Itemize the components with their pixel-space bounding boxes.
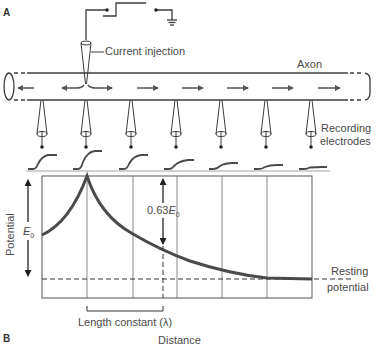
e0-label: E0 <box>23 226 34 239</box>
recording-electrodes-label-1: Recording <box>321 123 371 134</box>
recording-electrode-icon <box>216 100 226 147</box>
recording-electrodes-label-2: electrodes <box>320 136 371 147</box>
recording-electrode-icon <box>171 100 181 147</box>
axon-icon <box>4 73 370 100</box>
recording-electrode-icon <box>261 100 271 147</box>
decay-label: 0.63E0 <box>147 205 180 218</box>
length-constant-label: Length constant (λ) <box>78 317 172 328</box>
injection-electrode-icon <box>81 41 104 84</box>
figure-canvas <box>0 0 381 348</box>
grid-lines <box>87 176 267 298</box>
panel-b-label: B <box>3 334 10 344</box>
recording-electrode-icon <box>306 100 316 147</box>
recording-electrode-icon <box>126 100 136 147</box>
switch-icon <box>103 3 146 16</box>
axon-label: Axon <box>297 59 322 70</box>
recording-electrode-icon <box>37 100 47 147</box>
potential-axis-label: Potential <box>5 213 16 256</box>
current-flow-arrows <box>18 85 340 88</box>
stimulus-circuit <box>86 3 177 40</box>
recording-electrode-icon <box>81 100 91 147</box>
recorded-traces <box>28 151 327 169</box>
potential-plot <box>28 176 352 311</box>
length-constant-bracket <box>87 306 163 311</box>
resting-label-2: potential <box>327 282 369 293</box>
resting-label-1: Resting <box>331 266 368 277</box>
distance-axis-label: Distance <box>158 335 201 346</box>
panel-a-label: A <box>3 8 10 18</box>
current-injection-label: Current injection <box>105 46 185 57</box>
recording-electrodes <box>37 100 316 147</box>
ground-icon <box>167 20 177 25</box>
